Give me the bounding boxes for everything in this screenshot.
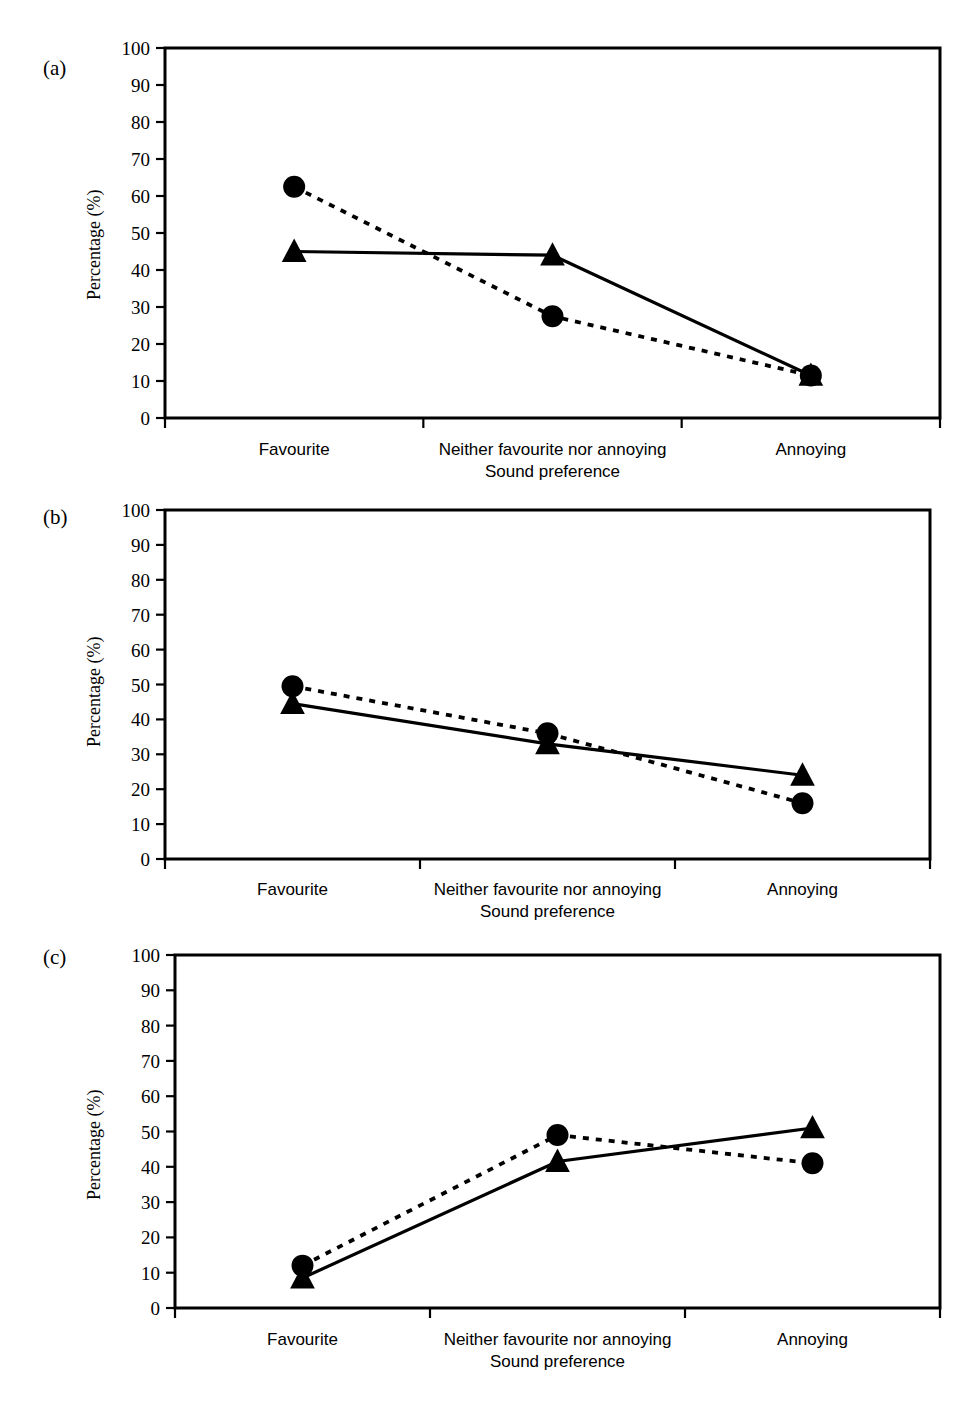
y-tick-label: 50 bbox=[131, 223, 150, 244]
x-category-label: Neither favourite nor annoying bbox=[444, 1330, 672, 1349]
y-tick-label: 0 bbox=[141, 849, 151, 870]
y-tick-label: 80 bbox=[141, 1016, 160, 1037]
y-tick-label: 70 bbox=[131, 149, 150, 170]
x-category-label: Annoying bbox=[767, 880, 838, 899]
y-tick-label: 100 bbox=[122, 500, 151, 521]
data-point-circle bbox=[792, 792, 814, 814]
y-tick-label: 10 bbox=[131, 814, 150, 835]
data-point-circle bbox=[802, 1152, 824, 1174]
y-tick-label: 50 bbox=[141, 1122, 160, 1143]
chart-panel-c: (c) Percentage (%) 010203040506070809010… bbox=[0, 920, 976, 1417]
x-category-label: Favourite bbox=[259, 440, 330, 459]
plot-area-a: 0102030405060708090100FavouriteNeither f… bbox=[0, 0, 976, 490]
y-tick-label: 20 bbox=[131, 779, 150, 800]
y-tick-label: 90 bbox=[141, 980, 160, 1001]
x-axis-title: Sound preference bbox=[490, 1352, 625, 1371]
y-tick-label: 80 bbox=[131, 112, 150, 133]
data-point-triangle bbox=[800, 1115, 825, 1138]
y-tick-label: 60 bbox=[131, 640, 150, 661]
x-category-label: Neither favourite nor annoying bbox=[434, 880, 662, 899]
plot-area-b: 0102030405060708090100FavouriteNeither f… bbox=[0, 477, 976, 927]
x-category-label: Annoying bbox=[775, 440, 846, 459]
series-line-circle bbox=[294, 187, 811, 376]
x-category-label: Favourite bbox=[267, 1330, 338, 1349]
y-tick-label: 10 bbox=[141, 1263, 160, 1284]
y-tick-label: 100 bbox=[132, 945, 161, 966]
y-tick-label: 40 bbox=[131, 709, 150, 730]
y-tick-label: 50 bbox=[131, 675, 150, 696]
y-tick-label: 90 bbox=[131, 535, 150, 556]
x-category-label: Neither favourite nor annoying bbox=[439, 440, 667, 459]
y-tick-label: 30 bbox=[141, 1192, 160, 1213]
y-tick-label: 20 bbox=[131, 334, 150, 355]
plot-area-c: 0102030405060708090100FavouriteNeither f… bbox=[0, 920, 976, 1417]
y-tick-label: 60 bbox=[131, 186, 150, 207]
y-tick-label: 80 bbox=[131, 570, 150, 591]
y-tick-label: 100 bbox=[122, 38, 151, 59]
data-point-triangle bbox=[280, 691, 305, 714]
x-axis-title: Sound preference bbox=[480, 902, 615, 921]
y-tick-label: 70 bbox=[141, 1051, 160, 1072]
y-tick-label: 90 bbox=[131, 75, 150, 96]
y-tick-label: 30 bbox=[131, 744, 150, 765]
data-point-circle bbox=[542, 305, 564, 327]
x-category-label: Annoying bbox=[777, 1330, 848, 1349]
y-tick-label: 40 bbox=[131, 260, 150, 281]
y-tick-label: 0 bbox=[141, 408, 151, 429]
y-tick-label: 30 bbox=[131, 297, 150, 318]
data-point-circle bbox=[283, 176, 305, 198]
x-category-label: Favourite bbox=[257, 880, 328, 899]
chart-panel-a: (a) Percentage (%) 010203040506070809010… bbox=[0, 0, 976, 490]
y-tick-label: 20 bbox=[141, 1227, 160, 1248]
y-tick-label: 70 bbox=[131, 605, 150, 626]
y-tick-label: 10 bbox=[131, 371, 150, 392]
data-point-circle bbox=[547, 1124, 569, 1146]
y-tick-label: 0 bbox=[151, 1298, 161, 1319]
chart-panel-b: (b) Percentage (%) 010203040506070809010… bbox=[0, 477, 976, 927]
y-tick-label: 40 bbox=[141, 1157, 160, 1178]
y-tick-label: 60 bbox=[141, 1086, 160, 1107]
